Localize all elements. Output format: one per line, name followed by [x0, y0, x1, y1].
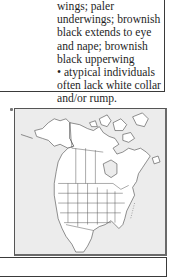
north-america-map-icon	[15, 109, 165, 254]
map-marker-dot	[10, 108, 13, 111]
description-line: and nape; brownish	[57, 40, 169, 53]
description-line: black upperwing	[57, 53, 169, 66]
range-map	[14, 108, 167, 256]
description-line: underwings; brownish	[57, 13, 169, 26]
description-line: and/or rump.	[57, 92, 169, 105]
next-section-box	[0, 257, 167, 277]
species-description-text: wings; paler underwings; brownish black …	[57, 0, 169, 106]
description-line: often lack white collar	[57, 79, 169, 92]
description-line: • atypical individuals	[57, 66, 169, 79]
description-line: wings; paler	[57, 0, 169, 13]
description-line: black extends to eye	[57, 26, 169, 39]
